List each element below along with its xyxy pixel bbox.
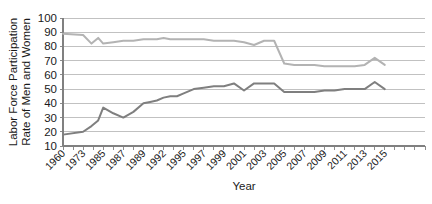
x-tick-label: 2007 [284, 147, 309, 172]
line-chart: 100908070605040302010 196019731985198719… [0, 0, 432, 204]
y-axis-title: Labor Force Participation [7, 18, 19, 146]
x-tick-label: 1973 [63, 147, 88, 172]
y-tick-label: 60 [44, 69, 57, 81]
chart-container: 100908070605040302010 196019731985198719… [0, 0, 432, 204]
y-tick-label: 20 [44, 126, 57, 138]
x-tick-label: 1999 [203, 147, 228, 172]
y-tick-label: 70 [44, 55, 57, 67]
x-tick-label: 1985 [83, 147, 108, 172]
x-tick-labels-group: 1960197319851987198919921995199719992001… [42, 147, 389, 172]
x-tick-label: 1987 [103, 147, 128, 172]
y-tick-label: 40 [44, 97, 57, 109]
x-tick-label: 2009 [304, 147, 329, 172]
x-tick-label: 1995 [163, 147, 188, 172]
y-tick-label: 100 [38, 12, 57, 24]
x-tick-label: 1992 [143, 147, 168, 172]
gridlines-group [63, 18, 425, 146]
x-tick-label: 2005 [264, 147, 289, 172]
y-axis-title-line2: Rate of Men and Women [20, 18, 32, 146]
x-tick-label: 2001 [223, 147, 248, 172]
x-tick-label: 2015 [364, 147, 389, 172]
axis-lines-group [63, 18, 425, 146]
y-tick-label: 50 [44, 83, 57, 95]
tick-marks-group [60, 18, 426, 150]
x-tick-label: 2003 [244, 147, 269, 172]
x-tick-label: 2013 [344, 147, 369, 172]
y-tick-labels-group: 100908070605040302010 [38, 12, 57, 152]
y-tick-label: 90 [44, 26, 57, 38]
data-series-group [63, 34, 385, 135]
y-tick-label: 30 [44, 112, 57, 124]
x-tick-label: 1997 [183, 147, 208, 172]
x-tick-label: 1989 [123, 147, 148, 172]
series-line-men [63, 34, 385, 67]
x-tick-label: 2011 [325, 147, 350, 172]
series-line-women [63, 82, 385, 135]
x-axis-title: Year [232, 180, 255, 192]
y-tick-label: 80 [44, 40, 57, 52]
